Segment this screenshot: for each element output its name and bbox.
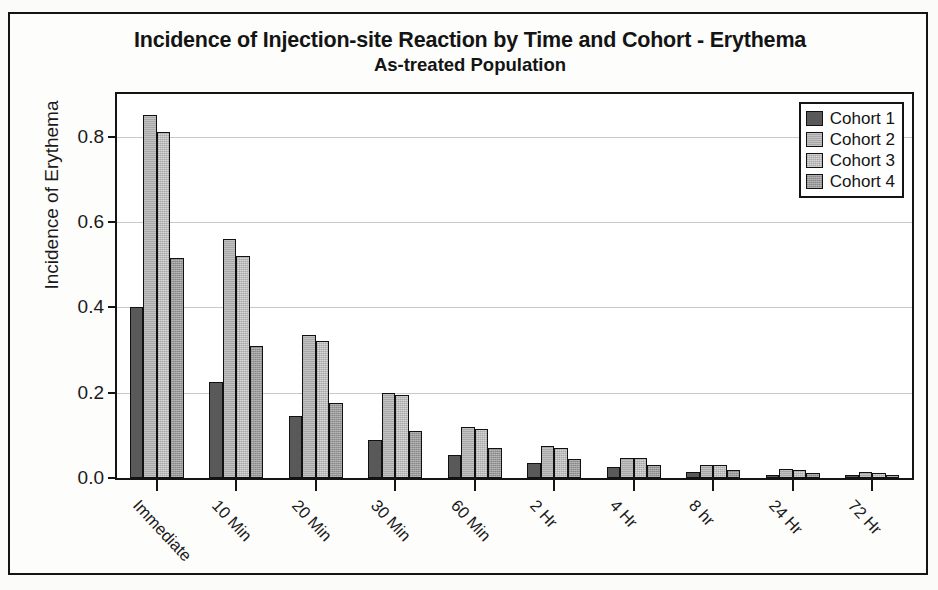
legend-label: Cohort 4	[830, 172, 895, 192]
x-tick-mark	[156, 478, 158, 491]
bar	[859, 472, 873, 478]
x-tick-mark	[553, 478, 555, 491]
bar	[223, 239, 237, 478]
legend-swatch-icon	[806, 132, 823, 147]
bar	[686, 472, 700, 478]
x-tick-label: 60 Min	[447, 496, 495, 545]
figure-frame: Incidence of Injection-site Reaction by …	[8, 12, 928, 575]
gridline	[117, 137, 912, 138]
bar	[527, 463, 541, 478]
bar	[634, 458, 648, 478]
bar	[143, 115, 157, 478]
bar	[793, 470, 807, 478]
bar	[607, 467, 621, 478]
bar	[395, 395, 409, 478]
y-tick-label: 0.2	[78, 382, 104, 404]
bar	[554, 448, 568, 478]
bar	[541, 446, 555, 478]
bar	[236, 256, 250, 478]
y-tick-mark	[108, 306, 117, 308]
bar	[316, 341, 330, 478]
bar	[409, 431, 423, 478]
bar	[647, 465, 661, 478]
legend-item: Cohort 2	[806, 129, 895, 150]
bar	[209, 382, 223, 478]
x-tick-mark	[394, 478, 396, 491]
x-tick-label: 72 Hr	[844, 496, 885, 538]
legend-item: Cohort 3	[806, 150, 895, 171]
legend-item: Cohort 1	[806, 108, 895, 129]
bar	[250, 346, 264, 478]
bar	[845, 475, 859, 478]
bar	[779, 469, 793, 478]
x-tick-mark	[235, 478, 237, 491]
x-tick-mark	[633, 478, 635, 491]
bar	[302, 335, 316, 478]
bar	[806, 473, 820, 478]
bar	[568, 459, 582, 478]
bar	[130, 307, 144, 478]
bar	[170, 258, 184, 478]
gridline	[117, 222, 912, 223]
x-tick-label: 20 Min	[288, 496, 336, 545]
y-tick-label: 0.4	[78, 296, 104, 318]
bar	[872, 473, 886, 478]
bar	[475, 429, 489, 478]
x-tick-mark	[315, 478, 317, 491]
y-tick-mark	[108, 221, 117, 223]
y-tick-mark	[108, 477, 117, 479]
bar	[329, 403, 343, 478]
legend-swatch-icon	[806, 153, 823, 168]
legend-swatch-icon	[806, 174, 823, 189]
chart-subtitle: As-treated Population	[10, 54, 930, 75]
y-tick-label: 0.8	[78, 126, 104, 148]
x-tick-label: 8 hr	[685, 496, 718, 530]
legend-item: Cohort 4	[806, 171, 895, 192]
title-block: Incidence of Injection-site Reaction by …	[10, 28, 930, 75]
bar	[157, 132, 171, 478]
bar	[700, 465, 714, 478]
bar	[620, 458, 634, 478]
x-tick-mark	[792, 478, 794, 491]
legend-label: Cohort 2	[830, 130, 895, 150]
x-tick-mark	[474, 478, 476, 491]
bar	[886, 475, 900, 478]
x-tick-label: 24 Hr	[765, 496, 806, 538]
bar	[368, 440, 382, 478]
x-tick-label: 2 Hr	[526, 496, 561, 532]
bar	[448, 455, 462, 478]
y-tick-mark	[108, 392, 117, 394]
x-tick-label: 30 Min	[367, 496, 415, 545]
bar	[766, 475, 780, 478]
legend: Cohort 1Cohort 2Cohort 3Cohort 4	[799, 102, 904, 198]
bar	[289, 416, 303, 478]
bar	[488, 448, 502, 478]
x-tick-mark	[712, 478, 714, 491]
plot-area: 0.00.20.40.60.8 Immediate10 Min20 Min30 …	[115, 92, 914, 480]
bar	[713, 465, 727, 478]
bar	[461, 427, 475, 478]
bar	[727, 470, 741, 478]
y-tick-label: 0.0	[78, 467, 104, 489]
bar	[382, 393, 396, 478]
legend-label: Cohort 3	[830, 151, 895, 171]
chart-title: Incidence of Injection-site Reaction by …	[10, 28, 930, 52]
legend-swatch-icon	[806, 111, 823, 126]
x-tick-label: 4 Hr	[606, 496, 641, 532]
x-tick-label: Immediate	[129, 496, 195, 565]
x-tick-mark	[871, 478, 873, 491]
y-tick-label: 0.6	[78, 211, 104, 233]
y-axis-label: Incidence of Erythema	[41, 35, 63, 355]
figure-root: Incidence of Injection-site Reaction by …	[0, 0, 938, 590]
y-tick-mark	[108, 136, 117, 138]
legend-label: Cohort 1	[830, 109, 895, 129]
x-tick-label: 10 Min	[208, 496, 256, 545]
